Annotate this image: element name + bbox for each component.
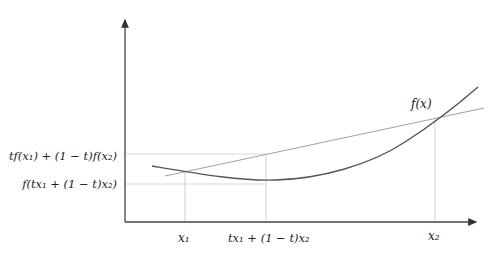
fx-label: f(x) [410, 97, 432, 111]
convexity-diagram: f(x) x₁ tx₁ + (1 − t)x₂ x₂ tf(x₁) + (1 −… [0, 0, 497, 256]
x2-label: x₂ [428, 229, 440, 243]
chord-line [165, 108, 484, 176]
chord-value-label: tf(x₁) + (1 − t)f(x₂) [9, 149, 117, 163]
mid-x-label: tx₁ + (1 − t)x₂ [228, 231, 310, 245]
x1-label: x₁ [178, 231, 190, 245]
func-value-label: f(tx₁ + (1 − t)x₂) [21, 177, 117, 191]
